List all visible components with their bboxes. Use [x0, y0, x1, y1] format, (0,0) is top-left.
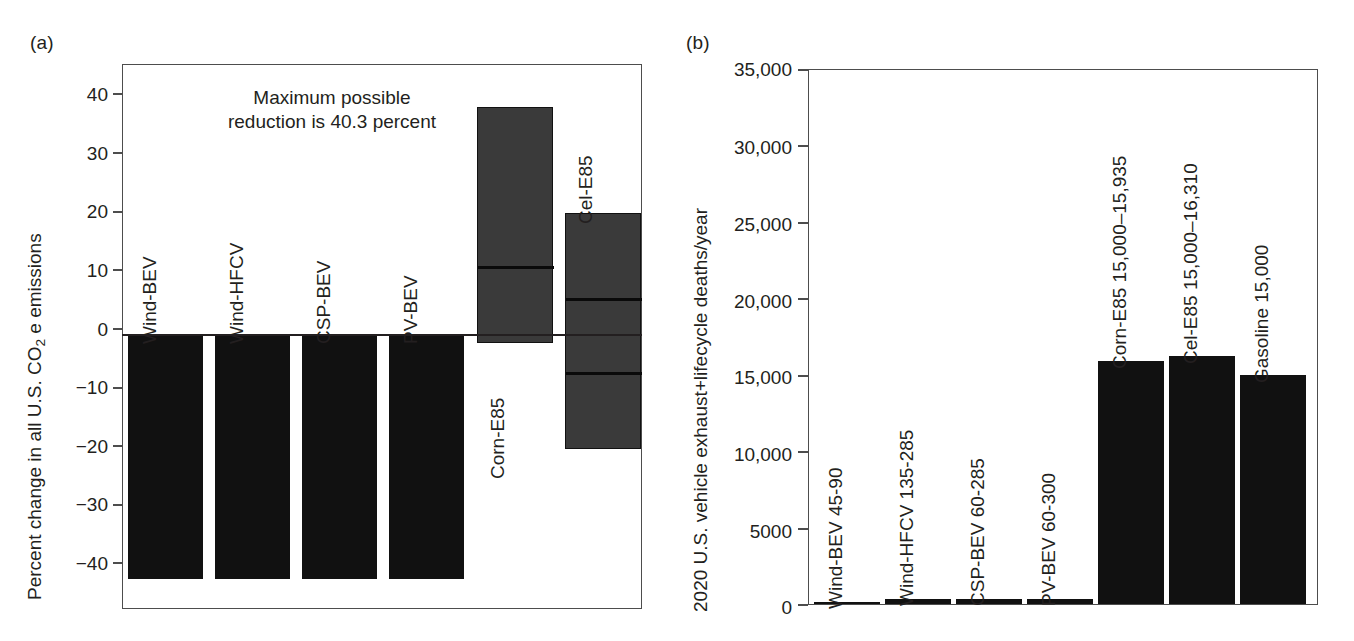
panel-b-tickmark-5000: [798, 528, 808, 530]
panel-b-tickmark-30000: [798, 145, 808, 147]
panel-a-tick-neg20: −20: [40, 437, 108, 456]
panel-a-annotation-line2: reduction is 40.3 percent: [192, 110, 472, 134]
panel-b-bar-wind-bev[interactable]: [814, 602, 880, 604]
panel-b-bar-pv-bev[interactable]: [1027, 599, 1093, 604]
panel-a-label-wind-hfcv: Wind-HFCV: [227, 243, 246, 344]
panel-b-label-corn-e85: Corn-E85 15,000–15,935: [1110, 156, 1129, 369]
panel-a-tag: (a): [30, 32, 54, 54]
panel-b-tickmark-25000: [798, 222, 808, 224]
panel-a-y-axis-title: Percent change in all U.S. CO2 e emissio…: [24, 233, 48, 600]
panel-a-annotation: Maximum possible reduction is 40.3 perce…: [192, 86, 472, 135]
panel-b-tick-15000: 15,000: [700, 368, 792, 387]
panel-b-tag: (b): [686, 32, 710, 54]
panel-a-tick-neg40: −40: [40, 554, 108, 573]
panel-b-label-csp-bev: CSP-BEV 60-285: [968, 458, 987, 606]
panel-b-tickmark-10000: [798, 451, 808, 453]
panel-b-tick-0: 0: [700, 598, 792, 617]
panel-b-tick-30000: 30,000: [700, 138, 792, 157]
panel-a-tick-10: 10: [40, 261, 108, 280]
panel-a-y-axis-title-subscript: 2: [33, 339, 48, 347]
panel-a-tick-30: 30: [40, 144, 108, 163]
panel-b-bar-gasoline[interactable]: [1240, 375, 1306, 604]
panel-a-tick-0: 0: [40, 320, 108, 339]
panel-a-bar-csp-bev[interactable]: [302, 334, 377, 579]
panel-a-tick-neg30: −30: [40, 495, 108, 514]
panel-a-label-corn-e85: Corn-E85: [488, 398, 507, 479]
panel-b-label-gasoline: Gasoline 15,000: [1252, 245, 1271, 383]
panel-b-bar-corn-e85[interactable]: [1098, 361, 1164, 604]
panel-a-bar-corn-e85-midline: [478, 266, 554, 269]
panel-b-tick-20000: 20,000: [700, 292, 792, 311]
panel-a-bar-cel-e85[interactable]: [565, 213, 641, 449]
panel-a-label-cel-e85: Cel-E85: [576, 155, 595, 224]
panel-b-tickmark-20000: [798, 298, 808, 300]
panel-b-tickmark-15000: [798, 375, 808, 377]
panel-a-label-csp-bev: CSP-BEV: [314, 261, 333, 344]
panel-a-bar-wind-bev[interactable]: [128, 334, 203, 579]
panel-b-bar-cel-e85[interactable]: [1169, 356, 1235, 604]
panel-b-label-cel-e85: Cel-E85 15,000–16,310: [1181, 163, 1200, 364]
panel-a-tick-neg10: −10: [40, 378, 108, 397]
panel-a-bar-cel-e85-midline-lower: [566, 372, 642, 375]
panel-a-tick-20: 20: [40, 202, 108, 221]
panel-a-label-pv-bev: PV-BEV: [401, 275, 420, 344]
panel-a-bar-corn-e85[interactable]: [477, 107, 553, 343]
panel-b-y-axis-title: 2020 U.S. vehicle exhaust+lifecycle deat…: [690, 208, 712, 612]
panel-b-label-wind-bev: Wind-BEV 45-90: [826, 467, 845, 609]
panel-a-label-wind-bev: Wind-BEV: [140, 256, 159, 344]
panel-b-tick-5000: 5000: [700, 522, 792, 541]
panel-a-bar-cel-e85-midline-upper: [566, 298, 642, 301]
panel-a-bar-pv-bev[interactable]: [389, 334, 464, 579]
panel-b-tick-25000: 25,000: [700, 215, 792, 234]
panel-b-bar-csp-bev[interactable]: [956, 599, 1022, 604]
figure-root: (a) Percent change in all U.S. CO2 e emi…: [0, 0, 1354, 641]
panel-b-tick-35000: 35,000: [700, 60, 792, 79]
panel-b-bar-wind-hfcv[interactable]: [885, 599, 951, 604]
panel-b-tickmark-35000: [798, 69, 808, 71]
panel-b-label-pv-bev: PV-BEV 60-300: [1039, 473, 1058, 606]
panel-a-bar-wind-hfcv[interactable]: [215, 334, 290, 579]
panel-b-tick-10000: 10,000: [700, 445, 792, 464]
panel-b-label-wind-hfcv: Wind-HFCV 135-285: [897, 430, 916, 606]
panel-b-tickmark-0: [798, 604, 808, 606]
panel-a-annotation-line1: Maximum possible: [192, 86, 472, 110]
panel-a-tick-40: 40: [40, 85, 108, 104]
panel-a-zero-line: [122, 334, 642, 336]
